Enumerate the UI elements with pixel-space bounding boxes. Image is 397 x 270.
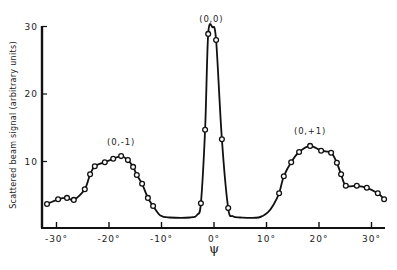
data-point-marker <box>65 196 70 201</box>
data-point-marker <box>289 160 294 165</box>
axes <box>41 26 385 228</box>
data-point-marker <box>102 160 107 165</box>
data-point-marker <box>297 150 302 155</box>
data-point-marker <box>339 172 344 177</box>
data-point-marker <box>140 181 145 186</box>
x-tick-label: -10° <box>150 234 173 244</box>
chart-area: -30°-20°-10°0°10°20°30°102030 (0,-1)(0,0… <box>0 0 397 270</box>
y-tick-label: 20 <box>25 89 38 99</box>
data-point-marker <box>203 127 208 132</box>
tick-labels: -30°-20°-10°0°10°20°30°102030 <box>25 22 381 245</box>
data-point-marker <box>220 137 225 142</box>
data-point-marker <box>92 164 97 169</box>
data-point-marker <box>329 150 334 155</box>
peak-label: (0,+1) <box>294 126 326 136</box>
data-point-marker <box>88 172 93 177</box>
data-point-marker <box>134 173 139 178</box>
x-tick-label: 10° <box>257 234 276 244</box>
data-points <box>45 32 387 211</box>
data-point-marker <box>364 185 369 190</box>
data-point-marker <box>45 202 50 207</box>
peak-label: (0,0) <box>199 14 223 24</box>
data-point-marker <box>146 196 151 201</box>
y-axis-label: Scattered beam signal (arbitrary units) <box>9 41 18 209</box>
data-point-marker <box>206 32 211 37</box>
scatter-signal-plot: -30°-20°-10°0°10°20°30°102030 (0,-1)(0,0… <box>0 0 397 270</box>
data-point-marker <box>214 38 219 43</box>
data-point-marker <box>71 198 76 203</box>
signal-curve <box>47 24 384 218</box>
data-point-marker <box>226 206 231 211</box>
data-point-marker <box>111 156 116 161</box>
data-point-marker <box>382 197 387 202</box>
x-tick-label: 20° <box>310 234 329 244</box>
data-point-marker <box>335 160 340 165</box>
data-point-marker <box>308 144 313 149</box>
y-tick-label: 10 <box>25 157 38 167</box>
data-point-marker <box>199 201 204 206</box>
x-tick-label: -20° <box>97 234 120 244</box>
data-point-marker <box>126 158 131 163</box>
x-tick-label: 30° <box>362 234 381 244</box>
data-point-marker <box>281 174 286 179</box>
x-tick-label: -30° <box>45 234 68 244</box>
x-axis-label: ψ <box>209 241 219 256</box>
data-point-marker <box>56 197 61 202</box>
data-point-marker <box>131 165 136 170</box>
data-point-marker <box>343 183 348 188</box>
data-point-marker <box>277 191 282 196</box>
peak-label: (0,-1) <box>107 137 135 147</box>
data-point-marker <box>354 183 359 188</box>
data-point-marker <box>119 154 124 159</box>
y-tick-label: 30 <box>25 22 38 32</box>
data-point-marker <box>375 191 380 196</box>
peak-annotations: (0,-1)(0,0)(0,+1) <box>107 14 326 147</box>
data-point-marker <box>151 204 156 209</box>
data-point-marker <box>82 187 87 192</box>
data-point-marker <box>319 148 324 153</box>
